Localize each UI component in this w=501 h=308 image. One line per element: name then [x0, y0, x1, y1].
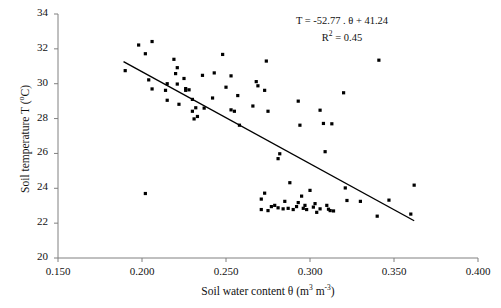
data-point [184, 89, 187, 92]
data-point [144, 52, 147, 55]
data-point [276, 157, 279, 160]
data-point [295, 205, 298, 208]
data-point [176, 66, 179, 69]
x-tick-label: 0.150 [33, 265, 83, 277]
data-point [221, 53, 224, 56]
data-point [325, 204, 328, 207]
data-point [312, 206, 315, 209]
data-point [164, 89, 167, 92]
data-point [238, 124, 241, 127]
data-point [266, 110, 269, 113]
data-point [177, 103, 180, 106]
data-point [255, 80, 258, 83]
data-point [345, 199, 348, 202]
data-point [313, 202, 316, 205]
data-point [213, 71, 216, 74]
data-point [166, 82, 169, 85]
y-tick-label: 30 [20, 76, 48, 88]
data-point [297, 100, 300, 103]
data-point [302, 207, 305, 210]
data-point [191, 98, 194, 101]
regression-line [124, 62, 415, 221]
data-point [229, 74, 232, 77]
data-point [266, 209, 269, 212]
data-point [192, 117, 195, 120]
data-point [263, 89, 266, 92]
data-point [324, 150, 327, 153]
data-point [303, 204, 306, 207]
data-point [265, 59, 268, 62]
data-point [236, 94, 239, 97]
data-point [263, 192, 266, 195]
data-point [196, 115, 199, 118]
data-point [315, 211, 318, 214]
data-point [174, 72, 177, 75]
scatter-chart: T = -52.77 . θ + 41.24 R2 = 0.45 Soil te… [0, 0, 501, 308]
data-point [147, 78, 150, 81]
data-point [251, 104, 254, 107]
data-point [203, 107, 206, 110]
data-point [376, 215, 379, 218]
data-point [322, 122, 325, 125]
data-point [387, 199, 390, 202]
data-point [298, 124, 301, 127]
data-point [278, 152, 281, 155]
data-point [211, 96, 214, 99]
data-point [297, 201, 300, 204]
data-point [413, 184, 416, 187]
data-point [166, 99, 169, 102]
data-point [256, 84, 259, 87]
data-point [377, 59, 380, 62]
data-point [150, 87, 153, 90]
x-tick-label: 0.300 [285, 265, 335, 277]
data-point [318, 207, 321, 210]
data-point [292, 208, 295, 211]
y-tick-label: 20 [20, 250, 48, 262]
y-tick-label: 24 [20, 180, 48, 192]
data-point [182, 77, 185, 80]
data-point [282, 207, 285, 210]
y-tick-label: 22 [20, 215, 48, 227]
data-point [191, 110, 194, 113]
data-point [124, 69, 127, 72]
data-point [224, 86, 227, 89]
data-point [150, 40, 153, 43]
data-point [329, 209, 332, 212]
x-tick-label: 0.200 [117, 265, 167, 277]
data-point [270, 205, 273, 208]
data-point [332, 209, 335, 212]
data-point [300, 195, 303, 198]
data-point [144, 192, 147, 195]
data-point [137, 43, 140, 46]
x-tick-label: 0.400 [453, 265, 501, 277]
data-point [287, 207, 290, 210]
data-point [283, 200, 286, 203]
x-tick-label: 0.250 [201, 265, 251, 277]
x-tick-label: 0.350 [369, 265, 419, 277]
data-point [359, 200, 362, 203]
data-point [288, 181, 291, 184]
y-tick-label: 34 [20, 6, 48, 18]
data-point [233, 110, 236, 113]
data-point [194, 106, 197, 109]
data-point [201, 74, 204, 77]
data-point [229, 108, 232, 111]
data-point [260, 208, 263, 211]
data-point [308, 189, 311, 192]
data-point [342, 91, 345, 94]
data-point [273, 204, 276, 207]
y-tick-label: 26 [20, 145, 48, 157]
plot-area [0, 0, 501, 308]
data-point [409, 212, 412, 215]
data-point [187, 88, 190, 91]
data-point [176, 82, 179, 85]
data-point [276, 206, 279, 209]
data-point [318, 109, 321, 112]
y-tick-label: 32 [20, 41, 48, 53]
data-point [260, 197, 263, 200]
data-point [172, 58, 175, 61]
data-point [330, 122, 333, 125]
data-point [344, 186, 347, 189]
y-tick-label: 28 [20, 111, 48, 123]
data-point [305, 208, 308, 211]
